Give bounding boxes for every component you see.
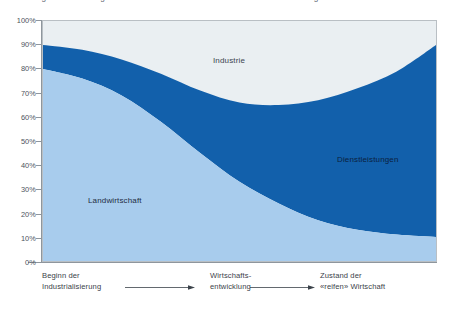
y-axis-tick-mark: [36, 44, 41, 45]
x-axis-stage-mid: Wirtschafts- entwicklung: [210, 271, 251, 292]
y-axis-tick-label: 90%: [8, 40, 36, 49]
figure-caption-text: Abbildung 3 Veränderung der wirtschaftli…: [8, 0, 318, 2]
x-axis-stage-right-line2: «reifen» Wirtschaft: [320, 282, 385, 293]
progression-arrow-icon-2: [250, 284, 315, 291]
x-axis-stage-mid-line1: Wirtschafts-: [210, 271, 251, 282]
y-axis-tick-mark: [36, 262, 41, 263]
series-label-industrie: Industrie: [213, 56, 245, 65]
y-axis-tick-mark: [36, 68, 41, 69]
y-axis-tick-label: 50%: [8, 137, 36, 146]
y-axis-tick-mark: [36, 93, 41, 94]
figure-caption-strip: Abbildung 3 Veränderung der wirtschaftli…: [0, 0, 454, 11]
x-axis-stage-left: Beginn der Industrialisierung: [42, 271, 101, 292]
x-axis-stage-right: Zustand der «reifen» Wirtschaft: [320, 271, 385, 292]
y-axis-tick-label: 0%: [8, 258, 36, 267]
y-axis-tick-label: 70%: [8, 89, 36, 98]
y-axis-tick-label: 30%: [8, 185, 36, 194]
series-label-dienstleistungen: Dienstleistungen: [337, 155, 399, 164]
y-axis-tick-mark: [36, 238, 41, 239]
y-axis-tick-mark: [36, 117, 41, 118]
x-axis-stage-mid-line2: entwicklung: [210, 282, 251, 293]
y-axis-tick-label: 40%: [8, 161, 36, 170]
y-axis-tick-label: 10%: [8, 234, 36, 243]
y-axis-tick-mark: [36, 189, 41, 190]
progression-arrow-icon-1: [125, 284, 195, 291]
y-axis-tick-label: 60%: [8, 113, 36, 122]
y-axis-tick-mark: [36, 214, 41, 215]
y-axis-tick-mark: [36, 141, 41, 142]
figure-container: Abbildung 3 Veränderung der wirtschaftli…: [0, 0, 454, 312]
x-axis-stage-left-line2: Industrialisierung: [42, 282, 101, 293]
x-axis-stage-right-line1: Zustand der: [320, 271, 385, 282]
x-axis-stage-left-line1: Beginn der: [42, 271, 101, 282]
y-axis-tick-label: 100%: [8, 16, 36, 25]
series-label-landwirtschaft: Landwirtschaft: [88, 196, 142, 205]
y-axis-tick-label: 80%: [8, 64, 36, 73]
y-axis-tick-mark: [36, 165, 41, 166]
y-axis-tick-mark: [36, 20, 41, 21]
y-axis-tick-label: 20%: [8, 210, 36, 219]
x-axis-line: [28, 262, 437, 263]
